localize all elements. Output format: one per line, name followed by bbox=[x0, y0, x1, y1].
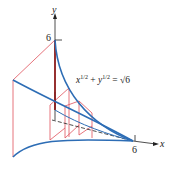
y-axis-label: y bbox=[52, 5, 56, 15]
diagram-graphic bbox=[0, 0, 173, 172]
x-axis-label: x bbox=[160, 139, 164, 149]
curves bbox=[13, 40, 133, 157]
equation-label: x1/2 + y1/2 = √6 bbox=[76, 74, 130, 86]
solid-diagram: y 6 6 x x1/2 + y1/2 = √6 bbox=[0, 0, 173, 172]
y-tick-label: 6 bbox=[46, 33, 51, 43]
x-axis-arrow-icon bbox=[153, 142, 159, 146]
x-tick-label: 6 bbox=[132, 145, 137, 155]
